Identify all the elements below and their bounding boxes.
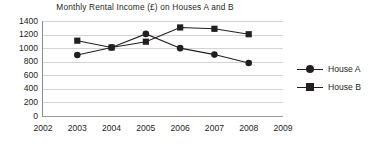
data-point-house-b-2003 [74, 38, 80, 44]
y-tick-600: 600 [4, 71, 38, 80]
data-point-house-b-2005 [143, 39, 149, 45]
data-point-house-a-2007 [211, 51, 218, 58]
gridline-0 [43, 116, 283, 117]
x-tick-2004: 2004 [94, 124, 130, 133]
y-tick-400: 400 [4, 84, 38, 93]
series-line-house-b [77, 27, 248, 47]
y-tick-0: 0 [4, 112, 38, 121]
legend-marker [306, 65, 314, 73]
data-point-house-a-2006 [177, 45, 184, 52]
legend-item-house-a[interactable]: House A [297, 60, 377, 78]
y-tick-800: 800 [4, 57, 38, 66]
data-point-house-a-2005 [143, 31, 150, 38]
chart-legend: House AHouse B [297, 60, 377, 96]
data-point-house-b-2008 [246, 31, 252, 37]
data-point-house-b-2006 [177, 24, 183, 30]
square-marker [297, 81, 323, 93]
legend-marker [306, 83, 314, 91]
data-point-house-a-2003 [74, 52, 81, 59]
x-tick-2007: 2007 [196, 124, 232, 133]
series-line-house-a [77, 34, 248, 63]
legend-label: House A [323, 64, 361, 74]
y-tick-200: 200 [4, 98, 38, 107]
x-tick-2009: 2009 [265, 124, 301, 133]
legend-item-house-b[interactable]: House B [297, 78, 377, 96]
circle-marker [297, 63, 323, 75]
x-tick-2008: 2008 [231, 124, 267, 133]
series-layer [43, 21, 283, 116]
plot-area [43, 21, 283, 116]
y-tick-1200: 1200 [4, 30, 38, 39]
data-point-house-a-2008 [245, 60, 252, 67]
y-tick-1000: 1000 [4, 44, 38, 53]
x-tick-2006: 2006 [162, 124, 198, 133]
legend-label: House B [323, 82, 361, 92]
x-tick-2002: 2002 [25, 124, 61, 133]
rental-income-line-chart: Monthly Rental Income (£) on Houses A an… [0, 0, 379, 147]
data-point-house-b-2007 [211, 26, 217, 32]
chart-title: Monthly Rental Income (£) on Houses A an… [0, 2, 290, 12]
x-tick-2003: 2003 [59, 124, 95, 133]
x-tick-2005: 2005 [128, 124, 164, 133]
data-point-house-b-2004 [108, 44, 114, 50]
y-axis-tick-labels: 1400120010008006004002000 [0, 21, 38, 116]
y-tick-1400: 1400 [4, 17, 38, 26]
